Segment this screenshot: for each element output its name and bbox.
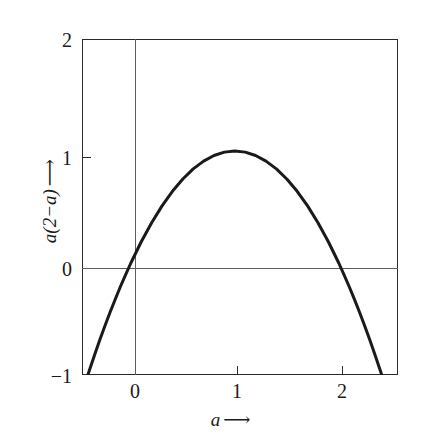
y-axis-title-text: a(2−a) (39, 189, 60, 243)
y-tick-mark-1 (82, 157, 91, 158)
x-zero-reference-line (135, 39, 136, 375)
y-axis-arrow-icon: ⟶ (39, 160, 60, 189)
y-axis-title: a(2−a)⟶ (38, 107, 61, 297)
parabola-figure: 2 1 0 −1 0 1 2 a⟶ a(2−a)⟶ (0, 0, 422, 442)
y-zero-reference-line (82, 268, 398, 269)
x-axis-arrow-icon: ⟶ (220, 409, 249, 430)
x-axis-title: a⟶ (155, 408, 305, 431)
plot-frame (82, 39, 398, 375)
x-tick-label-0: 0 (115, 381, 155, 401)
x-tick-mark-2 (342, 366, 343, 375)
y-tick-label-neg-1: −1 (30, 366, 72, 386)
x-tick-label-1: 1 (217, 381, 257, 401)
y-tick-label-2: 2 (30, 30, 72, 50)
x-axis-title-text: a (211, 409, 221, 430)
x-tick-mark-1 (237, 366, 238, 375)
x-tick-label-2: 2 (322, 381, 362, 401)
